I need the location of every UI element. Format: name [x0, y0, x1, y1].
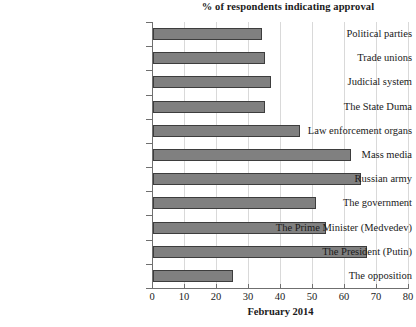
chart-title: % of respondents indicating approval — [160, 1, 416, 12]
approval-bar-chart: % of respondents indicating approval 010… — [0, 0, 416, 327]
bar — [153, 101, 265, 113]
y-tick-mark-5 — [146, 143, 152, 144]
bar — [153, 28, 262, 40]
y-category-label: Law enforcement organs — [268, 125, 416, 137]
x-tick-label-20: 20 — [201, 291, 231, 302]
x-tick-mark-50 — [312, 284, 313, 289]
y-category-label: Trade unions — [268, 52, 416, 64]
x-tick-label-0: 0 — [137, 291, 167, 302]
y-category-label: The Prime Minister (Medvedev) — [268, 222, 416, 234]
x-tick-mark-60 — [344, 284, 345, 289]
y-tick-mark-0 — [146, 22, 152, 23]
x-tick-label-10: 10 — [169, 291, 199, 302]
x-tick-label-30: 30 — [233, 291, 263, 302]
y-category-label: Mass media — [268, 149, 416, 161]
x-axis-title: February 2014 — [152, 306, 409, 317]
x-tick-mark-40 — [280, 284, 281, 289]
x-tick-mark-30 — [248, 284, 249, 289]
x-tick-mark-0 — [152, 284, 153, 289]
y-category-label: The government — [268, 197, 416, 209]
y-tick-mark-1 — [146, 46, 152, 47]
y-tick-mark-11 — [146, 288, 152, 289]
y-tick-mark-10 — [146, 264, 152, 265]
x-tick-mark-10 — [184, 284, 185, 289]
y-tick-mark-9 — [146, 240, 152, 241]
bar — [153, 270, 233, 282]
y-tick-mark-6 — [146, 167, 152, 168]
x-tick-label-50: 50 — [297, 291, 327, 302]
y-tick-mark-7 — [146, 191, 152, 192]
x-tick-mark-70 — [376, 284, 377, 289]
bar — [153, 52, 265, 64]
y-tick-mark-8 — [146, 215, 152, 216]
y-tick-mark-3 — [146, 95, 152, 96]
y-category-label: The opposition — [268, 270, 416, 282]
x-tick-label-80: 80 — [393, 291, 416, 302]
x-tick-mark-20 — [216, 284, 217, 289]
y-category-label: Russian army — [268, 173, 416, 185]
x-tick-mark-80 — [408, 284, 409, 289]
y-category-label: The State Duma — [268, 101, 416, 113]
x-tick-label-70: 70 — [361, 291, 391, 302]
bar — [153, 76, 271, 88]
x-tick-label-40: 40 — [265, 291, 295, 302]
y-tick-mark-2 — [146, 70, 152, 71]
y-tick-mark-4 — [146, 119, 152, 120]
y-category-label: Judicial system — [268, 76, 416, 88]
x-tick-label-60: 60 — [329, 291, 359, 302]
y-category-label: Political parties — [268, 28, 416, 40]
y-category-label: The President (Putin) — [268, 246, 416, 258]
